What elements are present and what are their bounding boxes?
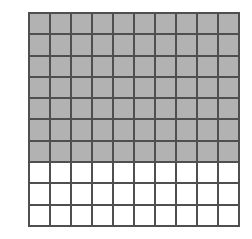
grid-cell-shaded (114, 99, 133, 118)
grid-cell-shaded (93, 35, 112, 54)
grid-cell-shaded (135, 78, 154, 97)
grid-cell-unshaded (51, 206, 70, 225)
grid-cell-shaded (72, 120, 91, 139)
grid-cell-unshaded (177, 184, 196, 203)
grid-cell-shaded (156, 78, 175, 97)
grid-cell-shaded (156, 35, 175, 54)
grid-cell-unshaded (30, 184, 49, 203)
grid-cell-shaded (114, 35, 133, 54)
grid-cell-unshaded (93, 163, 112, 182)
grid-cell-shaded (30, 14, 49, 33)
grid-cell-shaded (219, 57, 238, 76)
grid-cell-shaded (198, 120, 217, 139)
grid-cell-unshaded (219, 206, 238, 225)
grid-cell-shaded (30, 35, 49, 54)
hundred-square-grid (28, 12, 240, 227)
grid-cell-shaded (135, 35, 154, 54)
grid-cell-shaded (114, 14, 133, 33)
grid-cell-unshaded (72, 163, 91, 182)
grid-cell-shaded (198, 14, 217, 33)
grid-cell-shaded (93, 120, 112, 139)
grid-cell-shaded (135, 14, 154, 33)
grid-cell-shaded (30, 142, 49, 161)
grid-cell-shaded (198, 57, 217, 76)
grid-cell-unshaded (156, 206, 175, 225)
grid-cell-shaded (177, 78, 196, 97)
grid-cell-shaded (93, 99, 112, 118)
grid-cell-shaded (51, 14, 70, 33)
grid-cell-shaded (219, 35, 238, 54)
grid-cell-unshaded (219, 163, 238, 182)
grid-cell-unshaded (114, 206, 133, 225)
grid-cell-unshaded (114, 184, 133, 203)
grid-cell-unshaded (198, 206, 217, 225)
grid-cell-unshaded (72, 206, 91, 225)
grid-cell-shaded (114, 78, 133, 97)
grid-cell-shaded (51, 35, 70, 54)
grid-cell-shaded (219, 78, 238, 97)
grid-cell-shaded (51, 99, 70, 118)
grid-cell-shaded (177, 57, 196, 76)
grid-cell-unshaded (177, 206, 196, 225)
grid-cell-shaded (72, 78, 91, 97)
grid-cell-unshaded (177, 163, 196, 182)
grid-cell-shaded (114, 120, 133, 139)
grid-cell-shaded (51, 57, 70, 76)
grid-cell-shaded (198, 99, 217, 118)
grid-cell-shaded (72, 57, 91, 76)
grid-cell-shaded (156, 120, 175, 139)
grid-cell-shaded (219, 142, 238, 161)
grid-cell-shaded (72, 142, 91, 161)
grid-cell-shaded (156, 142, 175, 161)
grid-cell-shaded (72, 99, 91, 118)
grid-cell-shaded (30, 78, 49, 97)
grid-cell-unshaded (219, 184, 238, 203)
grid-cell-shaded (198, 142, 217, 161)
grid-cell-shaded (219, 14, 238, 33)
grid-cell-shaded (219, 120, 238, 139)
grid-cell-unshaded (198, 163, 217, 182)
grid-cell-shaded (93, 142, 112, 161)
grid-cell-unshaded (198, 184, 217, 203)
grid-cell-shaded (198, 78, 217, 97)
grid-cell-shaded (51, 78, 70, 97)
grid-cell-shaded (156, 57, 175, 76)
grid-cell-unshaded (51, 184, 70, 203)
grid-cell-shaded (156, 14, 175, 33)
grid-cell-shaded (177, 99, 196, 118)
grid-cell-shaded (135, 120, 154, 139)
grid-cell-shaded (177, 120, 196, 139)
grid-cell-shaded (51, 142, 70, 161)
grid-cell-shaded (114, 142, 133, 161)
grid-cell-unshaded (135, 184, 154, 203)
grid-cell-unshaded (72, 184, 91, 203)
grid-cell-unshaded (114, 163, 133, 182)
grid-cell-shaded (93, 14, 112, 33)
grid-cell-unshaded (51, 163, 70, 182)
grid-cell-shaded (135, 99, 154, 118)
grid-cell-shaded (177, 142, 196, 161)
grid-cell-unshaded (135, 206, 154, 225)
grid-cell-shaded (51, 120, 70, 139)
grid-cell-shaded (177, 35, 196, 54)
grid-cell-shaded (135, 142, 154, 161)
grid-cell-shaded (93, 57, 112, 76)
grid-cell-shaded (114, 57, 133, 76)
grid-cell-shaded (30, 120, 49, 139)
figure-root (0, 0, 252, 239)
grid-cell-shaded (72, 35, 91, 54)
grid-cell-shaded (72, 14, 91, 33)
grid-cell-shaded (219, 99, 238, 118)
grid-cell-unshaded (156, 163, 175, 182)
grid-cell-shaded (156, 99, 175, 118)
grid-cell-shaded (93, 78, 112, 97)
grid-cell-unshaded (156, 184, 175, 203)
grid-cell-unshaded (30, 206, 49, 225)
grid-cell-unshaded (93, 184, 112, 203)
grid-cell-unshaded (30, 163, 49, 182)
grid-cell-unshaded (135, 163, 154, 182)
grid-cell-shaded (198, 35, 217, 54)
grid-cell-shaded (177, 14, 196, 33)
grid-cell-shaded (30, 99, 49, 118)
grid-cell-shaded (30, 57, 49, 76)
